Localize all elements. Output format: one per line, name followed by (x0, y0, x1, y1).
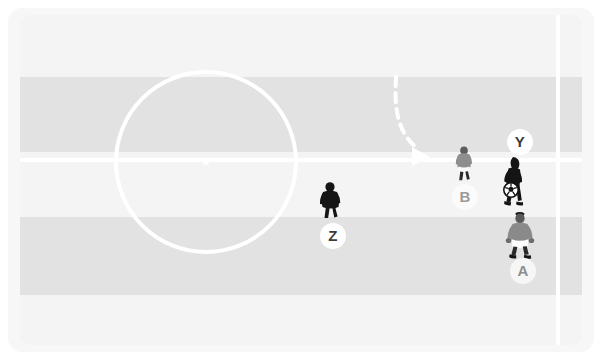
pitch-surround: Z B (8, 8, 594, 352)
soccer-pitch: Z B (20, 15, 582, 345)
player-figure-b[interactable] (453, 145, 475, 181)
player-figure-a[interactable] (503, 211, 537, 259)
pitch-stripe-4 (20, 217, 582, 295)
pitch-stripe-1 (20, 15, 582, 77)
player-label-b[interactable]: B (452, 184, 478, 210)
right-touchline (556, 15, 560, 345)
tactical-diagram-scene: Z B (0, 0, 602, 360)
soccer-ball (503, 182, 519, 202)
player-label-y[interactable]: Y (507, 129, 533, 155)
player-figure-z[interactable] (317, 180, 343, 220)
pitch-stripe-2 (20, 77, 582, 152)
player-label-z[interactable]: Z (320, 223, 346, 249)
center-spot (203, 159, 209, 165)
pitch-stripe-5 (20, 295, 582, 345)
player-label-a[interactable]: A (510, 258, 536, 284)
